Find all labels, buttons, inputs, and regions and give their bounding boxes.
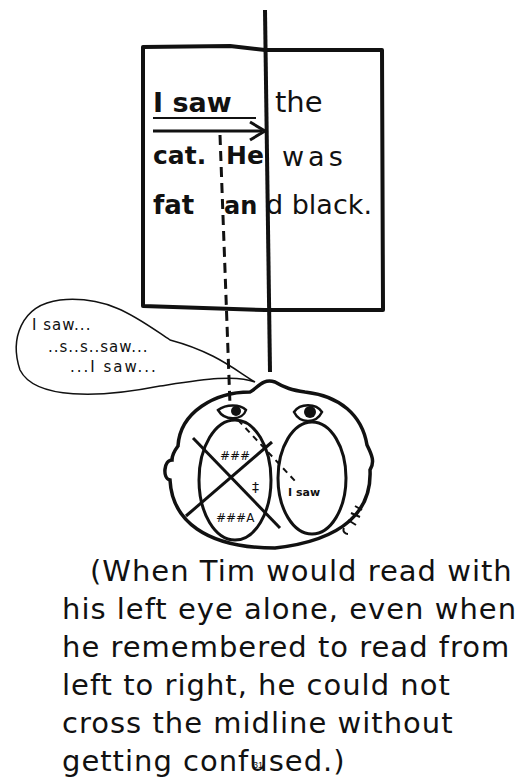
scribble-1: ### bbox=[220, 449, 250, 463]
text-left-1: I saw bbox=[153, 87, 232, 118]
bubble-line-1: I saw... bbox=[32, 316, 91, 334]
text-right-1: the bbox=[275, 85, 323, 119]
scribble-3: ###A bbox=[216, 511, 255, 525]
caption-line-1: (When Tim would read with bbox=[62, 552, 512, 590]
text-left-3b: an bbox=[224, 192, 257, 220]
text-right-3: d black. bbox=[266, 189, 372, 220]
text-left-2b: He bbox=[226, 141, 264, 170]
text-left-3: fat bbox=[153, 190, 194, 220]
page-number: 31 bbox=[253, 760, 263, 770]
page-box bbox=[143, 46, 383, 310]
bubble-line-2: ..s..s..saw... bbox=[48, 338, 148, 356]
caption-line-3: he remembered to read from bbox=[62, 628, 512, 666]
caption: (When Tim would read with his left eye a… bbox=[62, 552, 512, 780]
caption-line-2: his left eye alone, even when bbox=[62, 590, 512, 628]
text-left-2: cat. bbox=[153, 141, 206, 170]
caption-line-6: getting confused.) bbox=[62, 742, 512, 780]
bubble-line-3: ...I saw... bbox=[70, 358, 158, 376]
scribble-2: ‡ bbox=[252, 479, 259, 495]
text-right-2: was bbox=[282, 141, 347, 172]
caption-line-4: left to right, he could not bbox=[62, 666, 512, 704]
right-brain-label: I saw bbox=[288, 486, 320, 499]
caption-line-5: cross the midline without bbox=[62, 704, 512, 742]
right-brain-oval bbox=[278, 422, 346, 534]
